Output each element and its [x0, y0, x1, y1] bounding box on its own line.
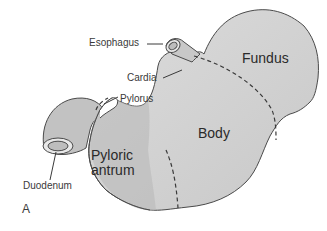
duodenum-label: Duodenum [23, 181, 72, 191]
esophagus-label: Esophagus [89, 38, 139, 48]
body-label: Body [198, 126, 230, 141]
cardia-label: Cardia [127, 73, 156, 83]
panel-letter: A [22, 202, 30, 216]
pylorus-label: Pylorus [120, 94, 153, 104]
fundus-label: Fundus [242, 51, 289, 66]
pyloric-antrum-label-line2: antrum [91, 163, 135, 178]
pyloric-antrum-label: Pyloric antrum [91, 148, 135, 177]
pyloric-antrum-label-line1: Pyloric [91, 148, 135, 163]
stomach-diagram: Esophagus Cardia Pylorus Duodenum Fundus… [0, 0, 327, 231]
stomach-illustration [0, 0, 327, 231]
